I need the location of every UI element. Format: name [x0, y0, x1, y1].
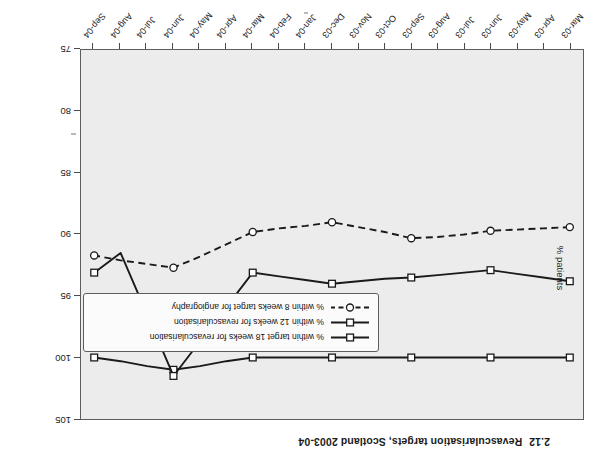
- x-axis-tick-label: Sep-04: [82, 11, 108, 40]
- legend-circle-marker-icon: [330, 302, 370, 313]
- legend-item-label: % within 8 weeks target for angiography: [172, 303, 324, 313]
- x-axis-tick-label: Apr-04: [214, 13, 239, 40]
- series-line-3: [94, 222, 570, 268]
- series-3-marker: [408, 235, 415, 242]
- legend-item-label: % within 12 weeks for revascularisation: [174, 318, 324, 328]
- x-axis-tick: [437, 43, 438, 49]
- x-axis-tick-label: May-03: [506, 11, 533, 40]
- y-axis-tick: [74, 110, 80, 111]
- x-axis-tick: [172, 43, 173, 49]
- series-1-marker: [249, 354, 256, 361]
- series-3-marker: [328, 219, 335, 226]
- y-axis-tick-label: 95: [60, 291, 71, 302]
- legend-item-2[interactable]: % within 12 weeks for revascularisation: [92, 315, 370, 330]
- x-axis-tick: [145, 43, 146, 49]
- x-axis-tick: [251, 43, 252, 49]
- y-axis-tick-label: 75: [60, 44, 71, 55]
- x-axis-tick: [198, 43, 199, 49]
- y-axis-tick: [74, 172, 80, 173]
- series-layer: [81, 50, 583, 419]
- y-axis-tick: [74, 419, 80, 420]
- y-axis-tick-label: 90: [60, 229, 71, 240]
- x-axis-tick: [92, 43, 93, 49]
- chart-title-text: Revascularisation targets, Scotland 2003…: [298, 436, 522, 448]
- series-3-marker: [91, 252, 98, 259]
- y-axis-title: % patients: [555, 246, 566, 290]
- chart-title-number: 2.12: [529, 436, 550, 448]
- x-axis-tick-label: Oct-03: [373, 13, 398, 40]
- series-2-marker: [566, 278, 573, 285]
- series-3-marker: [566, 224, 573, 231]
- chart-figure: 2.12Revascularisation targets, Scotland …: [0, 0, 607, 454]
- x-axis-tick-label: Jan-04: [294, 12, 319, 40]
- series-2-marker: [91, 269, 98, 276]
- plot-inner: [81, 50, 583, 419]
- series-3-marker: [487, 227, 494, 234]
- series-1-marker: [329, 354, 336, 361]
- x-axis-tick-label: Jun-04: [161, 12, 186, 40]
- x-axis-tick: [570, 43, 571, 49]
- legend-item-1[interactable]: % within target 18 weeks for revasculari…: [92, 330, 370, 345]
- x-axis-tick: [119, 43, 120, 49]
- series-3-marker: [170, 264, 177, 271]
- scan-speck: [304, 12, 308, 14]
- series-2-marker: [408, 274, 415, 281]
- x-axis-tick-label: Dec-03: [320, 11, 346, 40]
- x-axis-tick-label: Sep-03: [400, 11, 426, 40]
- y-axis-tick-label: 100: [55, 353, 71, 364]
- series-1-marker: [91, 354, 98, 361]
- chart-title: 2.12Revascularisation targets, Scotland …: [298, 436, 550, 448]
- x-axis-tick-label: Jun-03: [480, 12, 505, 40]
- x-axis-tick-label: May-04: [188, 11, 215, 40]
- x-axis-tick: [331, 43, 332, 49]
- y-axis-tick: [74, 295, 80, 296]
- x-axis-tick-label: Aug-04: [108, 11, 134, 40]
- legend-square-marker-icon: [330, 317, 370, 328]
- x-axis-tick-label: Jul-04: [135, 15, 158, 40]
- x-axis-tick: [358, 43, 359, 49]
- x-axis-tick: [225, 43, 226, 49]
- x-axis-tick: [384, 43, 385, 49]
- x-axis-tick-label: Mar-03: [559, 12, 585, 40]
- x-axis-tick: [517, 43, 518, 49]
- x-axis-tick: [278, 43, 279, 49]
- y-axis-tick: [74, 357, 80, 358]
- plot-area: [80, 49, 584, 420]
- legend-square-marker-icon: [330, 332, 370, 343]
- legend-item-label: % within target 18 weeks for revasculari…: [150, 333, 324, 343]
- x-axis-tick: [411, 43, 412, 49]
- series-2-marker: [329, 280, 336, 287]
- x-axis-tick: [490, 43, 491, 49]
- y-axis-tick: [74, 234, 80, 235]
- x-axis-tick-label: Mar-04: [241, 12, 267, 40]
- y-axis-tick-label: 80: [60, 105, 71, 116]
- scan-speck: [71, 133, 76, 135]
- chart-legend: % within target 18 weeks for revasculari…: [83, 293, 379, 352]
- y-axis: 7580859095100105: [0, 49, 80, 420]
- x-axis-tick-label: Aug-03: [426, 11, 452, 40]
- series-1-marker: [408, 354, 415, 361]
- series-1-marker: [566, 354, 573, 361]
- x-axis-tick: [543, 43, 544, 49]
- y-axis-tick-label: 105: [55, 415, 71, 426]
- series-3-marker: [249, 228, 256, 235]
- rotated-page-wrapper: 2.12Revascularisation targets, Scotland …: [0, 0, 607, 454]
- x-axis: Mar-03Apr-03May-03Jun-03Jul-03Aug-03Sep-…: [80, 0, 584, 49]
- legend-item-3[interactable]: % within 8 weeks target for angiography: [92, 300, 370, 315]
- x-axis-tick-label: Apr-03: [533, 13, 558, 40]
- series-2-marker: [487, 267, 494, 274]
- x-axis-tick: [464, 43, 465, 49]
- x-axis-tick-label: Feb-04: [267, 12, 293, 40]
- x-axis-tick-label: Nov-03: [347, 11, 373, 40]
- series-1-marker: [487, 354, 494, 361]
- series-2-marker: [170, 373, 177, 380]
- series-2-marker: [249, 269, 256, 276]
- y-axis-tick-label: 85: [60, 167, 71, 178]
- x-axis-tick: [304, 43, 305, 49]
- x-axis-tick-label: Jul-03: [453, 15, 476, 40]
